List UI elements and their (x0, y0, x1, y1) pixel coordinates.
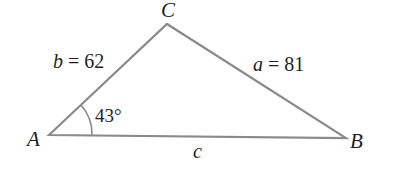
side-b-var: b (53, 50, 63, 72)
side-label-a: a = 81 (253, 53, 304, 75)
side-a-value: 81 (284, 53, 304, 75)
vertex-label-c: C (161, 0, 176, 22)
triangle-abc (49, 24, 346, 138)
side-a-var: a (253, 53, 263, 75)
side-b-value: 62 (84, 50, 104, 72)
side-label-b: b = 62 (53, 50, 104, 72)
angle-a-arc (81, 105, 92, 135)
triangle-diagram: C A B b = 62 a = 81 c 43° (0, 0, 395, 175)
side-b-eq: = (63, 50, 84, 72)
vertex-label-b: B (350, 129, 363, 153)
side-label-c: c (193, 140, 202, 162)
side-a-eq: = (263, 53, 284, 75)
vertex-label-a: A (25, 127, 40, 151)
angle-a-label: 43° (95, 105, 122, 126)
